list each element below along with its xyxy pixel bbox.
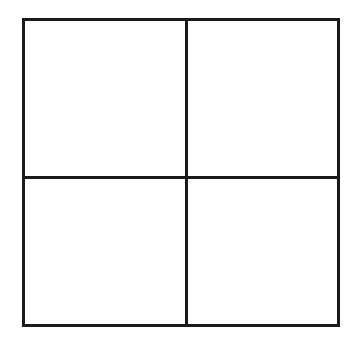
figure-canvas	[0, 0, 357, 338]
quadrant-top-right[interactable]	[188, 21, 337, 176]
quadrant-bottom-right[interactable]	[188, 179, 337, 324]
grid-square-outline	[22, 18, 340, 327]
quadrant-top-left[interactable]	[25, 21, 185, 176]
quadrant-bottom-left[interactable]	[25, 179, 185, 324]
